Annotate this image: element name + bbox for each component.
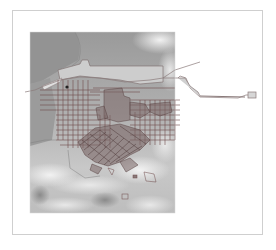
- map-canvas[interactable]: [0, 0, 276, 250]
- location-marker[interactable]: [65, 85, 68, 88]
